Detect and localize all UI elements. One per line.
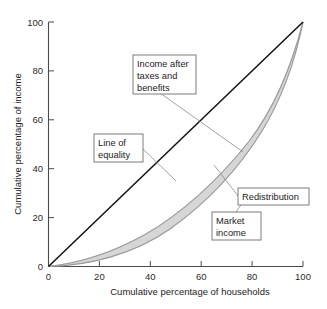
callout-line-of-equality-line1: Line of — [98, 138, 126, 148]
callout-market-income[interactable]: Market income — [212, 212, 261, 240]
y-tick-label-40: 40 — [32, 163, 43, 174]
y-tick-label-60: 60 — [32, 114, 43, 125]
callout-income-after-taxes-line2: taxes and — [137, 71, 177, 81]
callout-redistribution-label: Redistribution — [242, 192, 299, 202]
callout-line-of-equality-line2: equality — [98, 150, 130, 160]
y-tick-label-20: 20 — [32, 212, 43, 223]
y-tick-label-0: 0 — [38, 261, 43, 272]
y-axis-title: Cumulative percentage of income — [12, 73, 23, 215]
callout-income-after-taxes-line1: Income after — [137, 59, 189, 69]
x-tick-label-40: 40 — [145, 271, 156, 282]
callout-line-of-equality[interactable]: Line of equality — [94, 134, 143, 162]
y-tick-label-100: 100 — [27, 17, 43, 28]
x-tick-label-0: 0 — [46, 271, 51, 282]
x-axis-title: Cumulative percentage of households — [110, 286, 270, 297]
y-tick-label-80: 80 — [32, 65, 43, 76]
x-tick-label-100: 100 — [295, 271, 311, 282]
callout-redistribution[interactable]: Redistribution — [238, 188, 309, 205]
callout-market-income-line2: income — [216, 228, 246, 238]
x-tick-label-20: 20 — [94, 271, 105, 282]
lorenz-curve-figure: 0 20 40 60 80 100 0 20 40 60 80 100 Cumu… — [0, 0, 327, 309]
callout-income-after-taxes[interactable]: Income after taxes and benefits — [133, 55, 196, 94]
callout-market-income-line1: Market — [216, 216, 245, 226]
chart-svg: 0 20 40 60 80 100 0 20 40 60 80 100 Cumu… — [0, 0, 327, 309]
callout-income-after-taxes-line3: benefits — [137, 83, 170, 93]
x-tick-label-60: 60 — [196, 271, 207, 282]
x-tick-label-80: 80 — [247, 271, 258, 282]
